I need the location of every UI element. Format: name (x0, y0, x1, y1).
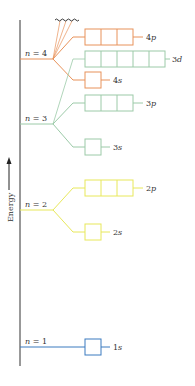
orbital-1s: 1s (85, 339, 122, 355)
svg-text:n = 3: n = 3 (25, 114, 47, 123)
svg-text:3p: 3p (146, 99, 156, 108)
orbital-3p: 3p (85, 95, 156, 111)
svg-text:2p: 2p (146, 184, 156, 193)
energy-level-diagram: Energy n = 4 4p 4s n = 3 (0, 0, 195, 386)
svg-text:3s: 3s (113, 143, 122, 152)
orbital-4s: 4s (85, 72, 122, 88)
level-n2: n = 2 2p 2s (20, 180, 156, 240)
continuum-wavy-line (55, 19, 79, 21)
arrow-up-icon (7, 157, 12, 164)
svg-text:4s: 4s (113, 76, 122, 85)
svg-text:n = 2: n = 2 (25, 200, 47, 209)
svg-text:1s: 1s (113, 343, 122, 352)
energy-axis-label: Energy (6, 157, 15, 222)
svg-text:n = 1: n = 1 (25, 337, 47, 346)
level-n4: n = 4 4p 4s (20, 19, 156, 88)
svg-text:n = 4: n = 4 (25, 49, 47, 58)
level-n1: n = 1 1s (20, 337, 122, 355)
svg-text:4p: 4p (146, 33, 156, 42)
level-n3: n = 3 3d 3p 3s (20, 51, 182, 155)
svg-text:2s: 2s (113, 228, 122, 237)
orbital-2s: 2s (85, 224, 122, 240)
orbital-4p: 4p (85, 29, 156, 45)
svg-text:3d: 3d (172, 55, 182, 64)
orbital-3d: 3d (85, 51, 182, 67)
orbital-3s: 3s (85, 139, 122, 155)
energy-label: Energy (6, 192, 15, 222)
orbital-2p: 2p (85, 180, 156, 196)
